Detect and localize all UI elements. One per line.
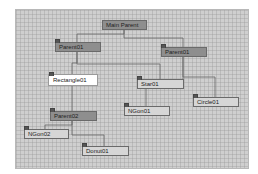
node-label: NGon02 [28, 131, 50, 137]
node-label: Donut01 [86, 148, 109, 154]
schematic-canvas[interactable] [15, 9, 249, 169]
node-label: Star01 [141, 81, 159, 87]
node-handle-icon[interactable] [50, 108, 55, 112]
node-parent01-left[interactable]: Parent01 [55, 42, 101, 52]
node-label: NGon01 [128, 108, 150, 114]
node-rectangle01[interactable]: Rectangle01 [49, 75, 97, 85]
node-handle-icon[interactable] [193, 94, 198, 98]
node-handle-icon[interactable] [55, 39, 60, 43]
node-label: Parent02 [54, 113, 78, 119]
node-handle-icon[interactable] [124, 103, 129, 107]
node-label: Rectangle01 [53, 77, 87, 83]
node-circle01[interactable]: Circle01 [193, 97, 239, 107]
node-ngon01[interactable]: NGon01 [124, 106, 170, 116]
node-label: Main Parent [106, 22, 138, 28]
node-handle-icon[interactable] [24, 126, 29, 130]
node-label: Parent01 [59, 44, 83, 50]
node-donut01[interactable]: Donut01 [82, 146, 129, 156]
node-star01[interactable]: Star01 [137, 79, 184, 89]
node-parent02[interactable]: Parent02 [50, 111, 97, 121]
node-handle-icon[interactable] [82, 143, 87, 147]
node-ngon02[interactable]: NGon02 [24, 129, 69, 139]
node-handle-icon[interactable] [49, 72, 54, 76]
node-label: Parent01 [165, 49, 189, 55]
node-handle-icon[interactable] [161, 44, 166, 48]
node-main-parent[interactable]: Main Parent [102, 20, 147, 30]
node-label: Circle01 [197, 99, 219, 105]
node-parent01-right[interactable]: Parent01 [161, 47, 207, 57]
node-handle-icon[interactable] [137, 76, 142, 80]
